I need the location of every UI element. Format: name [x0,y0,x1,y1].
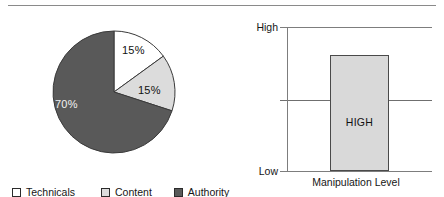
legend-swatch-authority [174,188,183,197]
tick-low [280,171,287,172]
legend-label-technicals: Technicals [26,186,75,197]
bar-manipulation-level [330,55,389,171]
gridline-high [287,27,432,28]
pie-label-content: 15% [138,84,161,96]
y-axis-line [287,27,288,171]
bar-value-label: HIGH [330,116,389,128]
pie-label-authority: 70% [55,98,78,110]
figure-container: 15% 15% 70% Technicals Content Authority… [0,0,444,197]
legend-swatch-content [101,188,110,197]
legend-item-content: Content [101,186,152,197]
legend-swatch-technicals [12,188,21,197]
pie-chart-graphic [40,22,190,172]
x-axis-line [280,171,432,172]
pie-chart-panel: 15% 15% 70% Technicals Content Authority [0,12,230,197]
legend-item-authority: Authority [174,186,229,197]
top-divider [8,5,436,6]
y-axis-label-high: High [236,21,278,33]
legend-label-content: Content [115,186,152,197]
legend-label-authority: Authority [188,186,229,197]
bar-chart-panel: High Low HIGH Manipulation Level [236,12,444,197]
tick-high [280,27,287,28]
x-axis-label: Manipulation Level [260,176,444,188]
legend-item-technicals: Technicals [12,186,75,197]
pie-label-technicals: 15% [122,44,145,56]
pie-legend: Technicals Content Authority [12,184,228,197]
